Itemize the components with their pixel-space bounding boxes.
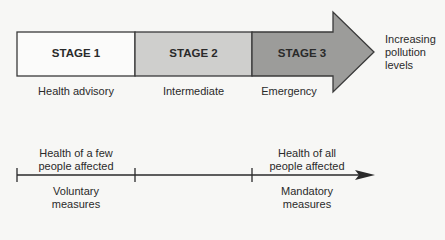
arrow-label-line: Increasing (385, 33, 436, 46)
label-line: Health of all (261, 147, 353, 160)
label-line: measures (261, 198, 353, 211)
stage-3-label: Emergency (252, 85, 326, 98)
stage-2-label: Intermediate (135, 85, 252, 98)
stage-1-label: Health advisory (17, 85, 135, 98)
stage-2-title: STAGE 2 (135, 47, 252, 59)
arrow-label-line: pollution (385, 46, 436, 59)
timeline-bottom-right-label: Mandatory measures (261, 185, 353, 211)
stage-1-title: STAGE 1 (17, 47, 135, 59)
label-line: Mandatory (261, 185, 353, 198)
stage-3-title: STAGE 3 (252, 47, 352, 59)
label-line: Health of a few (30, 147, 122, 160)
timeline-top-right-label: Health of all people affected (261, 147, 353, 173)
arrow-label-line: levels (385, 59, 436, 72)
timeline-top-left-label: Health of a few people affected (30, 147, 122, 173)
label-line: people affected (261, 160, 353, 173)
label-line: Voluntary (30, 185, 122, 198)
label-line: measures (30, 198, 122, 211)
timeline-bottom-left-label: Voluntary measures (30, 185, 122, 211)
label-line: people affected (30, 160, 122, 173)
arrow-label: Increasing pollution levels (385, 33, 436, 72)
